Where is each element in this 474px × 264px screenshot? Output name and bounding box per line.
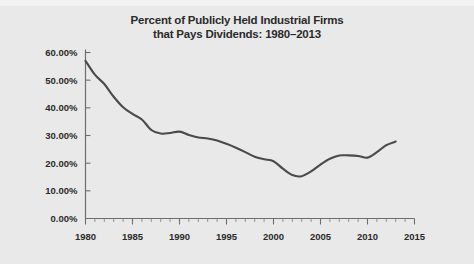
plot-area: 0.00%10.00%20.00%30.00%40.00%50.00%60.00… (0, 0, 474, 264)
y-axis-tick-label: 0.00% (51, 213, 78, 224)
dividend-percent-line (86, 61, 396, 177)
axis-tick-marks (86, 53, 415, 225)
x-axis-tick-label: 2010 (357, 231, 378, 242)
axis-lines (86, 50, 415, 219)
chart-figure: Percent of Publicly Held Industrial Firm… (0, 0, 474, 264)
x-axis-tick-label: 1985 (122, 231, 144, 242)
y-axis-tick-label: 60.00% (45, 47, 78, 58)
y-axis-tick-label: 50.00% (45, 75, 78, 86)
x-axis-tick-label: 2015 (404, 231, 426, 242)
y-axis-tick-label: 20.00% (45, 158, 78, 169)
y-axis-tick-label: 10.00% (45, 185, 78, 196)
x-axis-tick-label: 2005 (310, 231, 332, 242)
y-axis-tick-label: 40.00% (45, 102, 78, 113)
x-axis-tick-label: 1990 (169, 231, 190, 242)
y-axis-tick-labels: 0.00%10.00%20.00%30.00%40.00%50.00%60.00… (45, 47, 78, 224)
x-axis-tick-label: 1980 (75, 231, 96, 242)
x-axis-tick-label: 1995 (216, 231, 238, 242)
x-axis-tick-label: 2000 (263, 231, 284, 242)
y-axis-tick-label: 30.00% (45, 130, 78, 141)
x-axis-tick-labels: 19801985199019952000200520102015 (75, 231, 426, 242)
